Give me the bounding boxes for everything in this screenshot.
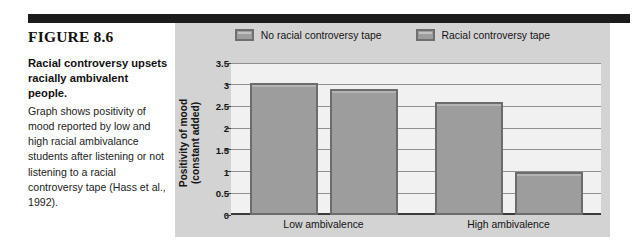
legend-label: No racial controversy tape <box>261 30 382 41</box>
y-axis-tick-mark <box>226 63 231 64</box>
figure-caption-column: FIGURE 8.6 Racial controversy upsets rac… <box>28 28 168 233</box>
y-axis-tick-mark <box>226 106 231 107</box>
x-axis-label: High ambivalence <box>467 219 550 230</box>
bar <box>515 172 583 215</box>
x-axis-label: Low ambivalence <box>283 219 363 230</box>
bar <box>250 83 318 215</box>
bar <box>435 102 503 215</box>
y-axis-title-line2: (constant added) <box>190 99 202 187</box>
y-axis-tick-mark <box>226 128 231 129</box>
chart-legend: No racial controversy tape Racial contro… <box>175 29 610 41</box>
legend-swatch-icon <box>235 29 254 41</box>
y-axis-title-line1: Positivity of mood <box>178 99 190 187</box>
y-axis-title: Positivity of mood (constant added) <box>177 78 203 208</box>
figure-caption-text: Graph shows positivity of mood reported … <box>28 104 168 209</box>
y-axis-tick-mark <box>226 149 231 150</box>
chart-panel: No racial controversy tape Racial contro… <box>175 23 610 237</box>
y-axis-tick-mark <box>226 171 231 172</box>
plot-wrapper: 00.511.522.533.5 <box>231 63 601 215</box>
y-axis-tick-mark <box>226 193 231 194</box>
legend-item-no-tape[interactable]: No racial controversy tape <box>235 29 382 41</box>
y-axis-tick-mark <box>226 84 231 85</box>
legend-item-tape[interactable]: Racial controversy tape <box>416 29 551 41</box>
legend-swatch-icon <box>416 29 435 41</box>
plot-area <box>231 63 601 215</box>
gridline <box>231 63 601 64</box>
figure-container: FIGURE 8.6 Racial controversy upsets rac… <box>0 0 638 247</box>
figure-top-rule <box>28 14 630 23</box>
y-axis-tick-mark <box>226 215 231 216</box>
figure-number-label: FIGURE 8.6 <box>28 28 168 45</box>
figure-headline: Racial controversy upsets racially ambiv… <box>28 56 168 100</box>
x-axis-category-labels: Low ambivalenceHigh ambivalence <box>231 219 601 235</box>
bar <box>330 89 398 215</box>
legend-label: Racial controversy tape <box>442 30 551 41</box>
